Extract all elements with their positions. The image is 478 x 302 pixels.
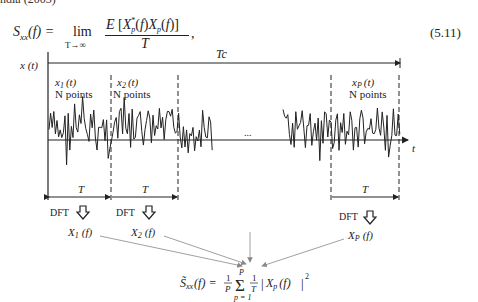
combine-arrow-p <box>262 239 344 266</box>
tc-label: Tc <box>216 47 228 61</box>
dft-step-2: DFT <box>116 206 155 219</box>
svg-text:T: T <box>251 284 257 294</box>
svg-text:P: P <box>224 284 231 294</box>
signal-waveform-left <box>49 97 212 165</box>
combine-arrow-2 <box>164 236 246 264</box>
svg-text:1: 1 <box>226 273 231 283</box>
svg-text:2: 2 <box>305 272 309 281</box>
signal-waveform-right <box>283 108 400 161</box>
svg-text:DFT: DFT <box>50 207 69 218</box>
spectrum-p: XP(f) <box>347 229 373 243</box>
svg-text:p = 1: p = 1 <box>233 293 251 302</box>
down-arrow-icon <box>364 211 376 224</box>
ellipsis: ... <box>244 127 252 138</box>
svg-text:P: P <box>238 268 244 277</box>
svg-text:1: 1 <box>252 273 257 283</box>
segment-2-points: N points <box>113 88 151 100</box>
time-axis-label: t <box>412 142 416 154</box>
svg-text:DFT: DFT <box>339 211 358 222</box>
svg-text:Xp(f): Xp(f) <box>265 276 291 291</box>
down-arrow-icon <box>77 206 89 219</box>
svg-text:DFT: DFT <box>116 207 135 218</box>
segment-p-points: N points <box>349 88 387 100</box>
svg-text:|: | <box>261 276 264 291</box>
svg-text:|: | <box>301 276 304 291</box>
segment-p-t-label: T <box>362 183 369 195</box>
combine-arrow-1 <box>100 236 242 266</box>
dft-step-1: DFT <box>50 206 89 219</box>
svg-text:S̃xx(f) =: S̃xx(f) = <box>180 276 217 291</box>
dft-step-p: DFT <box>339 211 376 224</box>
spectrum-1: X1(f) <box>67 226 92 240</box>
spectrum-2: X2(f) <box>130 226 155 240</box>
y-axis-label: x (t) <box>19 59 38 72</box>
segment-1-t-label: T <box>78 183 85 195</box>
averaged-psd-formula: S̃xx(f) = 1 P Σ P p = 1 1 T | Xp(f) | 2 <box>180 268 309 302</box>
down-arrow-icon <box>143 206 155 219</box>
segmentation-diagram: x (t) Tc t ... x1(t) N points x2(t) N po… <box>0 0 478 302</box>
segment-2-t-label: T <box>142 183 149 195</box>
segment-1-points: N points <box>55 88 93 100</box>
